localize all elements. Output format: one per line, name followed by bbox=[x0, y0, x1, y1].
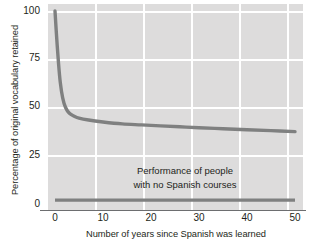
x-axis-line bbox=[40, 210, 306, 211]
gridline-x-50 bbox=[287, 4, 289, 210]
x-axis-title: Number of years since Spanish was learne… bbox=[48, 229, 304, 239]
annotation-line-2: with no Spanish courses bbox=[105, 178, 265, 192]
gridline-y-25 bbox=[48, 155, 303, 157]
y-tick-label-100: 100 bbox=[6, 6, 40, 16]
y-tick-label-25: 25 bbox=[6, 150, 40, 160]
x-tick-label-0: 0 bbox=[40, 213, 70, 223]
x-tick-label-10: 10 bbox=[88, 213, 118, 223]
y-tick-label-75: 75 bbox=[6, 53, 40, 63]
gridline-y-50 bbox=[48, 107, 303, 109]
gridline-y-100 bbox=[48, 11, 303, 13]
y-tick-label-0: 0 bbox=[6, 199, 40, 209]
x-tick-label-20: 20 bbox=[136, 213, 166, 223]
x-tick-label-40: 40 bbox=[232, 213, 262, 223]
x-tick-label-30: 30 bbox=[184, 213, 214, 223]
x-tick-label-50: 50 bbox=[280, 213, 310, 223]
gridline-y-75 bbox=[48, 59, 303, 61]
annotation-line-1: Performance of people bbox=[105, 164, 265, 178]
gridline-x-10 bbox=[95, 4, 97, 210]
no-courses-annotation: Performance of people with no Spanish co… bbox=[105, 164, 265, 191]
y-tick-label-50: 50 bbox=[6, 101, 40, 111]
y-axis-title: Percentage of original vocabulary retain… bbox=[10, 0, 20, 222]
